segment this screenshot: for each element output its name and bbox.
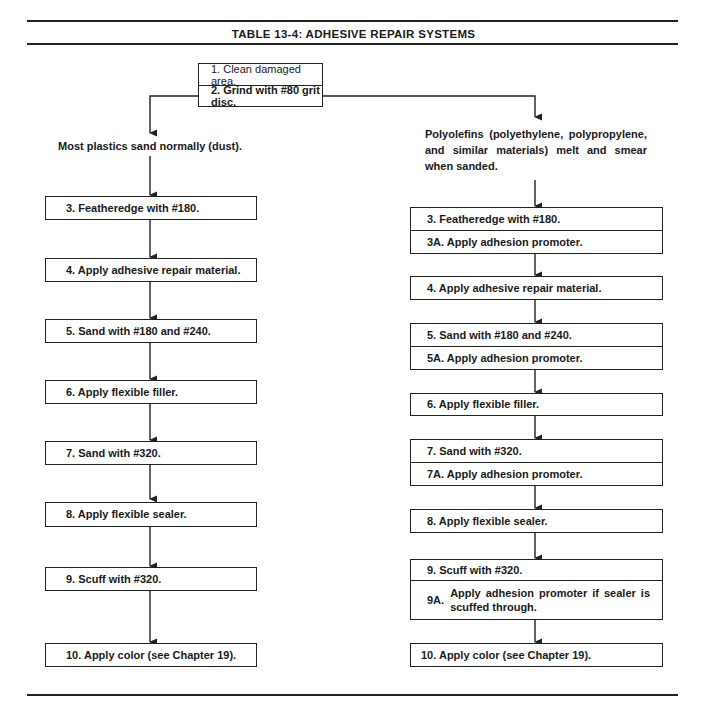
left-step-7: 7. Sand with #320. [45,441,257,465]
left-step-9: 9. Scuff with #320. [45,567,257,591]
left-step-3: 3. Featheredge with #180. [45,196,257,220]
right-step-7: 7. Sand with #320. [411,440,662,462]
left-step-3-label: 3. Featheredge with #180. [46,197,256,218]
right-step-10-box: 10. Apply color (see Chapter 19). [410,643,663,667]
step-1-clean: 1. Clean damaged area. [199,64,322,85]
left-step-10: 10. Apply color (see Chapter 19). [45,643,257,667]
right-step-4: 4. Apply adhesive repair material. [411,277,662,298]
right-step-10: 10. Apply color (see Chapter 19). [411,644,662,665]
right-step-5-group: 5. Sand with #180 and #240. 5A. Apply ad… [410,323,663,370]
right-step-4-box: 4. Apply adhesive repair material. [410,276,663,300]
right-step-9a-number: 9A. [427,594,444,606]
bottom-rule [27,694,678,696]
right-step-8: 8. Apply flexible sealer. [411,510,662,531]
left-step-10-label: 10. Apply color (see Chapter 19). [46,644,256,665]
step-2-grind: 2. Grind with #80 grit disc. [199,85,322,106]
right-step-3: 3. Featheredge with #180. [411,208,662,230]
left-branch-condition: Most plastics sand normally (dust). [58,138,242,154]
right-step-3-group: 3. Featheredge with #180. 3A. Apply adhe… [410,207,663,254]
right-step-9a-text: Apply adhesion promoter if sealer is scu… [450,586,662,614]
left-step-7-label: 7. Sand with #320. [46,442,256,463]
left-step-4: 4. Apply adhesive repair material. [45,258,257,282]
right-step-5a: 5A. Apply adhesion promoter. [411,346,662,368]
left-step-5-label: 5. Sand with #180 and #240. [46,320,256,341]
right-step-9-group: 9. Scuff with #320. 9A. Apply adhesion p… [410,559,663,620]
right-step-3a: 3A. Apply adhesion promoter. [411,230,662,252]
right-step-9a: 9A. Apply adhesion promoter if sealer is… [411,580,662,618]
right-step-6-box: 6. Apply flexible filler. [410,393,663,416]
right-step-7a: 7A. Apply adhesion promoter. [411,462,662,484]
right-branch-condition: Polyolefins (polyethylene, polypropylene… [425,126,647,174]
right-step-7-group: 7. Sand with #320. 7A. Apply adhesion pr… [410,439,663,486]
left-step-6: 6. Apply flexible filler. [45,380,257,404]
left-step-5: 5. Sand with #180 and #240. [45,319,257,343]
left-step-8-label: 8. Apply flexible sealer. [46,503,256,525]
left-step-4-label: 4. Apply adhesive repair material. [46,259,256,280]
start-steps-box: 1. Clean damaged area. 2. Grind with #80… [198,63,323,107]
left-step-9-label: 9. Scuff with #320. [46,568,256,589]
right-step-5: 5. Sand with #180 and #240. [411,324,662,346]
right-step-8-box: 8. Apply flexible sealer. [410,509,663,533]
right-step-6: 6. Apply flexible filler. [411,394,662,414]
right-step-9: 9. Scuff with #320. [411,560,662,580]
left-step-8: 8. Apply flexible sealer. [45,502,257,527]
left-step-6-label: 6. Apply flexible filler. [46,381,256,402]
